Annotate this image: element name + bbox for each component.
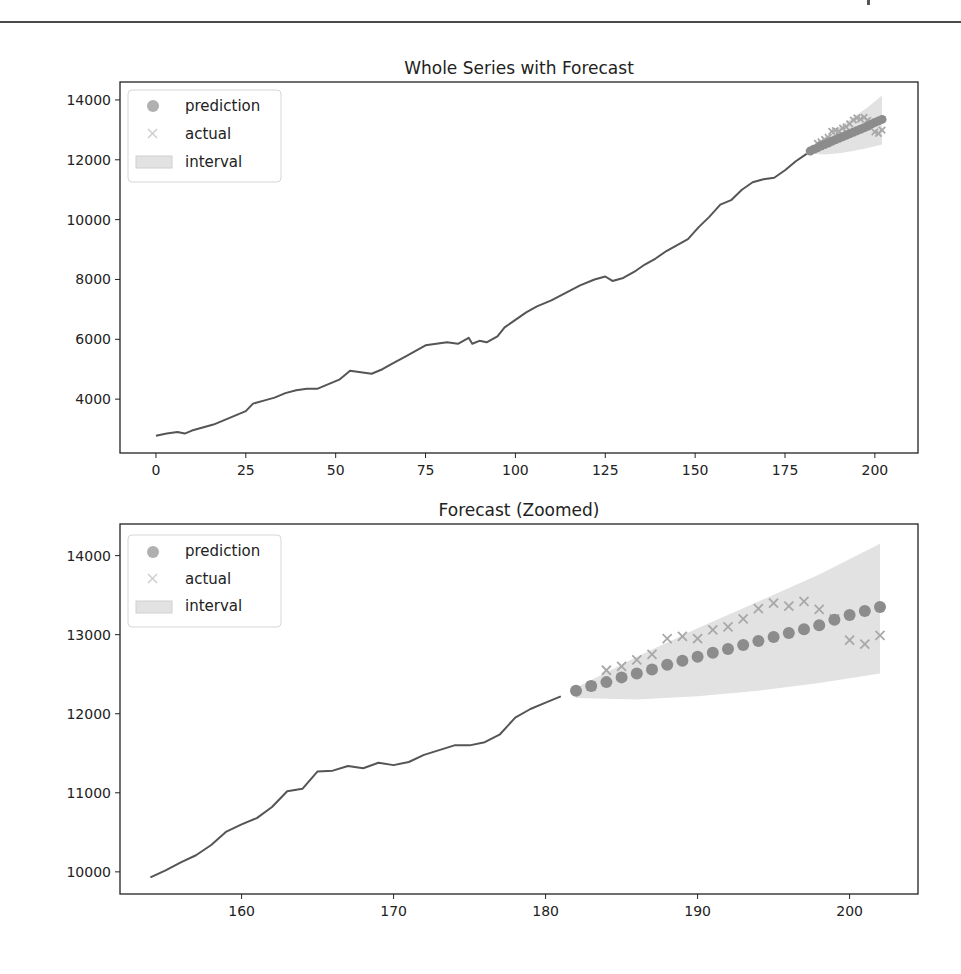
x-tick-label: 200 [836,903,863,919]
x-tick-label: 75 [417,462,435,478]
x-tick-label: 200 [861,462,888,478]
y-tick-label: 10000 [66,212,111,228]
legend-prediction-label: prediction [185,97,260,115]
chart-forecast-zoomed: Forecast (Zoomed) 1601701801902001000011… [66,500,918,919]
chart-title: Whole Series with Forecast [404,58,634,78]
x-tick-label: 0 [151,462,160,478]
x-tick-label: 100 [502,462,529,478]
x-tick-label: 50 [327,462,345,478]
legend-interval-label: interval [185,597,242,615]
y-tick-label: 14000 [66,548,111,564]
legend-interval-swatch-icon [136,156,172,168]
x-tick-label: 170 [380,903,407,919]
y-tick-label: 8000 [75,271,111,287]
legend-prediction-marker-icon [147,100,159,112]
x-tick-label: 190 [684,903,711,919]
x-tick-label: 160 [228,903,255,919]
legend-interval-swatch-icon [136,601,172,613]
y-tick-label: 13000 [66,627,111,643]
x-tick-label: 180 [532,903,559,919]
legend-prediction-marker-icon [147,546,159,558]
y-tick-label: 12000 [66,152,111,168]
x-tick-label: 125 [592,462,619,478]
y-tick-label: 11000 [66,785,111,801]
legend-prediction-label: prediction [185,542,260,560]
figure: Whole Series with Forecast 0255075100125… [0,0,961,974]
y-tick-label: 14000 [66,92,111,108]
legend-interval-label: interval [185,153,242,171]
history-line [150,696,560,877]
x-tick-label: 150 [682,462,709,478]
x-tick-label: 175 [772,462,799,478]
legend: prediction actual interval [128,535,281,627]
x-tick-label: 25 [237,462,255,478]
y-tick-label: 10000 [66,864,111,880]
legend-actual-label: actual [185,570,231,588]
legend-actual-label: actual [185,125,231,143]
y-tick-label: 6000 [75,331,111,347]
chart-title: Forecast (Zoomed) [439,500,600,520]
history-line [156,154,807,436]
legend: prediction actual interval [128,90,281,182]
y-tick-label: 4000 [75,391,111,407]
y-tick-label: 12000 [66,706,111,722]
chart-whole-series: Whole Series with Forecast 0255075100125… [66,58,918,478]
